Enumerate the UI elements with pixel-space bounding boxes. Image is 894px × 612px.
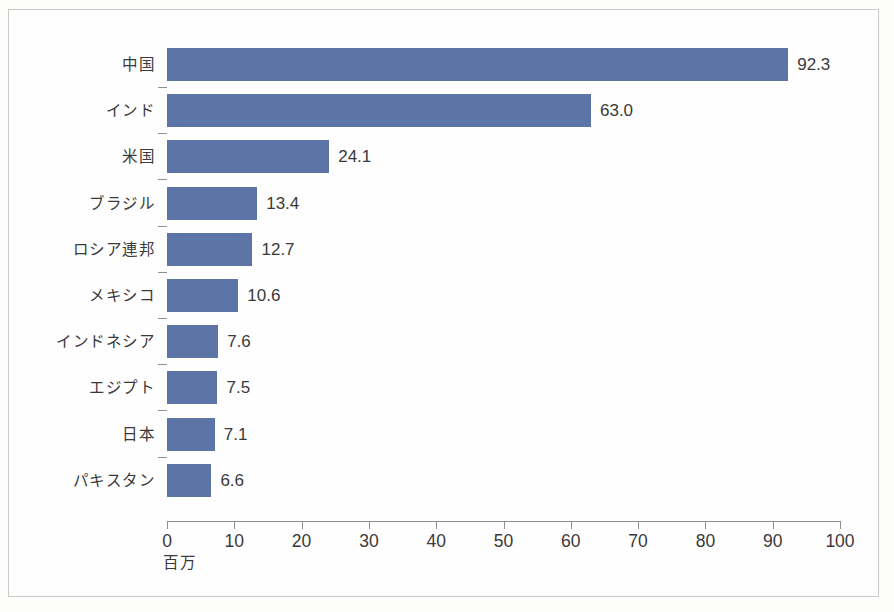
category-label: 米国 xyxy=(0,140,155,173)
chart-figure: 中国92.3インド63.0米国24.1ブラジル13.4ロシア連邦12.7メキシコ… xyxy=(0,0,894,612)
x-axis-tick xyxy=(773,521,774,529)
bar xyxy=(167,233,252,266)
x-axis-tick xyxy=(840,521,841,529)
x-axis-tick xyxy=(705,521,706,529)
bar-row: メキシコ10.6 xyxy=(0,279,894,312)
x-axis-tick xyxy=(436,521,437,529)
x-axis-tick-label: 40 xyxy=(401,531,471,552)
category-label: ブラジル xyxy=(0,187,155,220)
x-axis-tick-label: 90 xyxy=(738,531,808,552)
x-axis-tick-label: 60 xyxy=(536,531,606,552)
bar-value-label: 24.1 xyxy=(338,140,371,173)
bar xyxy=(167,187,257,220)
bar-value-label: 63.0 xyxy=(600,94,633,127)
x-axis-tick xyxy=(167,521,168,529)
x-axis-tick-label: 50 xyxy=(469,531,539,552)
category-label: 中国 xyxy=(0,48,155,81)
y-axis-tick xyxy=(158,133,167,134)
x-axis-tick-label: 0 xyxy=(132,531,202,552)
bar-value-label: 7.5 xyxy=(226,371,250,404)
bar xyxy=(167,94,591,127)
bar-row: インドネシア7.6 xyxy=(0,325,894,358)
y-axis-tick xyxy=(158,410,167,411)
x-axis-tick xyxy=(302,521,303,529)
bar-value-label: 13.4 xyxy=(266,187,299,220)
bar xyxy=(167,418,215,451)
bar-row: エジプト7.5 xyxy=(0,371,894,404)
category-label: インド xyxy=(0,94,155,127)
x-axis-tick xyxy=(234,521,235,529)
x-axis-tick-label: 30 xyxy=(334,531,404,552)
x-axis-tick-label: 80 xyxy=(670,531,740,552)
bar-value-label: 6.6 xyxy=(220,464,244,497)
plot-area: 中国92.3インド63.0米国24.1ブラジル13.4ロシア連邦12.7メキシコ… xyxy=(0,0,894,612)
y-axis-tick xyxy=(158,87,167,88)
x-axis-tick xyxy=(571,521,572,529)
x-axis-tick xyxy=(504,521,505,529)
category-label: パキスタン xyxy=(0,464,155,497)
bar-value-label: 7.6 xyxy=(227,325,251,358)
bar-value-label: 10.6 xyxy=(247,279,280,312)
x-axis-tick xyxy=(638,521,639,529)
bar-row: 日本7.1 xyxy=(0,418,894,451)
category-label: インドネシア xyxy=(0,325,155,358)
y-axis-tick xyxy=(158,457,167,458)
bar-row: 米国24.1 xyxy=(0,140,894,173)
x-axis-title: 百万 xyxy=(163,550,196,572)
x-axis-tick-label: 70 xyxy=(603,531,673,552)
bar-value-label: 92.3 xyxy=(797,48,830,81)
bar xyxy=(167,371,217,404)
x-axis-tick-label: 10 xyxy=(199,531,269,552)
bar-row: ロシア連邦12.7 xyxy=(0,233,894,266)
bar xyxy=(167,279,238,312)
bar-row: パキスタン6.6 xyxy=(0,464,894,497)
x-axis-tick xyxy=(369,521,370,529)
category-label: ロシア連邦 xyxy=(0,233,155,266)
bar-row: ブラジル13.4 xyxy=(0,187,894,220)
bar xyxy=(167,140,329,173)
category-label: メキシコ xyxy=(0,279,155,312)
bar xyxy=(167,464,211,497)
category-label: エジプト xyxy=(0,371,155,404)
bar-row: 中国92.3 xyxy=(0,48,894,81)
y-axis-tick xyxy=(158,179,167,180)
y-axis-tick xyxy=(158,226,167,227)
bar xyxy=(167,325,218,358)
y-axis-tick xyxy=(158,272,167,273)
bar-value-label: 12.7 xyxy=(261,233,294,266)
x-axis-tick-label: 100 xyxy=(805,531,875,552)
bar-value-label: 7.1 xyxy=(224,418,248,451)
bar xyxy=(167,48,788,81)
bar-row: インド63.0 xyxy=(0,94,894,127)
y-axis-tick xyxy=(158,364,167,365)
category-label: 日本 xyxy=(0,418,155,451)
x-axis-tick-label: 20 xyxy=(267,531,337,552)
y-axis-tick xyxy=(158,318,167,319)
